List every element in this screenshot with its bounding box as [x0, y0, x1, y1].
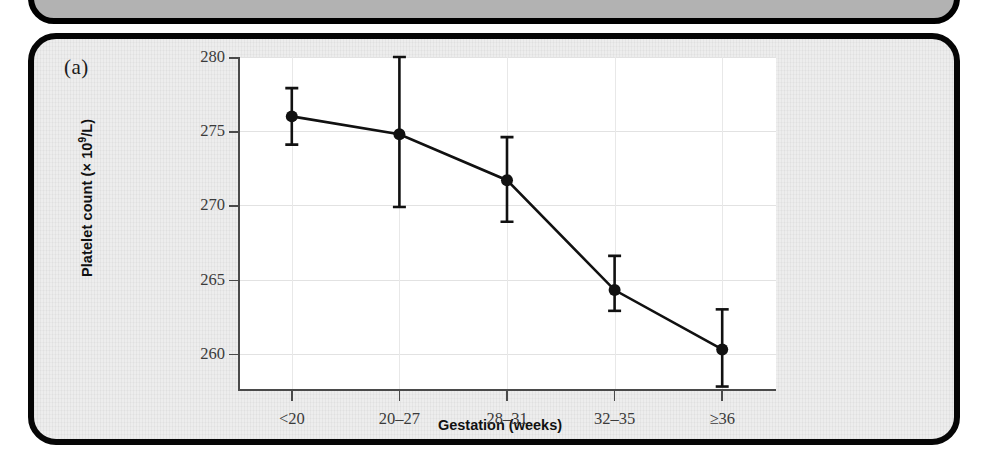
x-tick-label: 32–35: [594, 409, 635, 429]
x-tick-mark: [291, 391, 293, 401]
y-tick-label: 265: [200, 270, 225, 290]
x-tick-mark: [614, 391, 616, 401]
y-tick-mark: [229, 131, 238, 133]
y-tick-label: 280: [200, 47, 225, 67]
data-point-marker: [501, 174, 513, 186]
data-point-marker: [609, 284, 621, 296]
x-tick-label: 20–27: [379, 409, 420, 429]
data-point-marker: [286, 110, 298, 122]
data-point-marker: [716, 343, 728, 355]
data-series-layer: [238, 57, 776, 391]
y-axis-title: Platelet count (× 109/L): [77, 68, 95, 328]
y-tick-mark: [229, 57, 238, 59]
plot-area: 260265270275280 <2020–2728–3132–35≥36: [238, 57, 776, 391]
figure-canvas: (a) Platelet count (× 109/L) Gestation (…: [0, 0, 988, 469]
y-axis-title-mult: × 10: [79, 142, 95, 171]
x-tick-mark: [721, 391, 723, 401]
x-tick-mark: [399, 391, 401, 401]
y-tick-mark: [229, 354, 238, 356]
adjacent-figure-panel-partial: [28, 0, 960, 24]
data-point-marker: [393, 128, 405, 140]
y-tick-mark: [229, 205, 238, 207]
x-tick-label: 28–31: [486, 409, 527, 429]
y-axis-title-tail: /L): [79, 119, 95, 137]
y-tick-label: 270: [200, 195, 225, 215]
y-tick-label: 260: [200, 344, 225, 364]
figure-panel-a: (a) Platelet count (× 109/L) Gestation (…: [28, 33, 960, 445]
x-tick-label: ≥36: [709, 409, 735, 429]
y-tick-label: 275: [200, 121, 225, 141]
y-axis-title-exponent: 9: [77, 137, 88, 143]
x-tick-mark: [506, 391, 508, 401]
x-tick-label: <20: [279, 409, 305, 429]
y-axis-title-main: Platelet count (: [79, 172, 95, 278]
y-tick-mark: [229, 280, 238, 282]
